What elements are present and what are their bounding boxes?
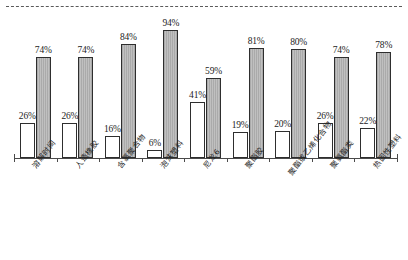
bar-white: 19% <box>233 132 248 158</box>
bar-group: 16%84% <box>105 22 136 158</box>
x-axis-tick <box>184 158 185 162</box>
x-axis-tick <box>312 158 313 162</box>
bar-value-label: 41% <box>189 90 206 100</box>
bar-chart: 26%74%26%74%16%84%6%94%41%59%19%81%20%80… <box>0 0 408 260</box>
bar-value-label: 80% <box>290 37 307 47</box>
bar-value-label: 81% <box>248 36 265 46</box>
bar-value-label: 22% <box>359 116 376 126</box>
bar-white: 20% <box>275 131 290 158</box>
x-axis-tick <box>99 158 100 162</box>
bar-value-label: 74% <box>77 45 94 55</box>
x-axis-tick <box>142 158 143 162</box>
x-axis-tick <box>269 158 270 162</box>
bar-value-label: 78% <box>375 40 392 50</box>
bar-white: 16% <box>105 136 120 158</box>
bar-value-label: 20% <box>274 119 291 129</box>
bar-group: 41%59% <box>190 22 221 158</box>
bar-value-label: 6% <box>149 138 161 148</box>
bar-value-label: 26% <box>61 111 78 121</box>
bar-value-label: 19% <box>232 120 249 130</box>
bar-gray: 81% <box>249 48 264 158</box>
bar-value-label: 84% <box>120 32 137 42</box>
dashed-top-border <box>6 6 402 7</box>
bar-group: 6%94% <box>147 22 178 158</box>
bar-white: 22% <box>360 128 375 158</box>
bar-white: 26% <box>62 123 77 158</box>
bar-group: 20%80% <box>275 22 306 158</box>
x-axis-tick <box>397 158 398 162</box>
x-axis-tick <box>57 158 58 162</box>
bar-value-label: 26% <box>19 111 36 121</box>
bar-group: 19%81% <box>233 22 264 158</box>
x-axis-tick <box>227 158 228 162</box>
bar-white: 41% <box>190 102 205 158</box>
bar-group: 26%74% <box>20 22 51 158</box>
x-axis-tick <box>354 158 355 162</box>
x-axis-tick <box>14 158 15 162</box>
bar-gray: 80% <box>291 49 306 158</box>
bar-group: 26%74% <box>62 22 93 158</box>
bar-value-label: 16% <box>104 124 121 134</box>
bar-value-label: 74% <box>333 45 350 55</box>
bar-value-label: 94% <box>163 18 180 28</box>
bar-value-label: 59% <box>205 66 222 76</box>
bar-white: 26% <box>20 123 35 158</box>
bar-group: 22%78% <box>360 22 391 158</box>
bar-value-label: 74% <box>35 45 52 55</box>
